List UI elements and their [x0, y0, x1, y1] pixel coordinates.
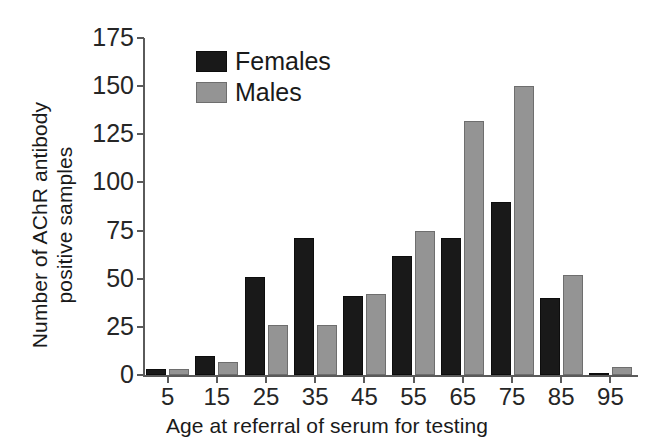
y-axis-tick [137, 278, 144, 280]
legend-swatch-males [196, 82, 227, 103]
legend-item-males: Males [196, 77, 331, 107]
bar-females-35 [294, 238, 314, 375]
y-axis-tick [137, 133, 144, 135]
legend-label-females: Females [235, 49, 331, 74]
y-axis-tick [137, 326, 144, 328]
bar-females-55 [392, 256, 412, 375]
y-axis-tick-label: 100 [48, 169, 134, 194]
x-axis-tick-label: 95 [580, 385, 640, 409]
y-axis-tick-label: 25 [48, 314, 134, 339]
bar-males-55 [415, 231, 435, 375]
bar-males-35 [317, 325, 337, 375]
y-axis-tick-label: 150 [48, 73, 134, 98]
bar-females-85 [540, 298, 560, 375]
bar-females-65 [441, 238, 461, 375]
y-axis-tick-label: 50 [48, 266, 134, 291]
bar-females-75 [491, 202, 511, 375]
bar-males-75 [514, 86, 534, 375]
bar-females-45 [343, 296, 363, 375]
bar-males-45 [366, 294, 386, 375]
legend-label-males: Males [235, 80, 302, 105]
y-axis-tick [137, 37, 144, 39]
bar-females-95 [589, 373, 609, 375]
y-axis-tick [137, 374, 144, 376]
bar-females-25 [245, 277, 265, 375]
bar-males-15 [218, 362, 238, 375]
y-axis-tick-label: 75 [48, 218, 134, 243]
bar-females-5 [146, 369, 166, 375]
bar-males-85 [563, 275, 583, 375]
legend-item-females: Females [196, 46, 331, 76]
chart-legend: Females Males [196, 46, 331, 107]
y-axis-tick-labels: 0255075100125150175 [34, 0, 134, 445]
bar-chart: Number of AChR antibody positive samples… [0, 0, 654, 445]
y-axis-tick [137, 230, 144, 232]
y-axis-tick [137, 85, 144, 87]
bar-males-65 [464, 121, 484, 375]
bar-males-25 [268, 325, 288, 375]
y-axis-tick-label: 125 [48, 121, 134, 146]
bar-males-5 [169, 369, 189, 375]
legend-swatch-females [196, 51, 227, 72]
y-axis-tick-label: 175 [48, 25, 134, 50]
y-axis-tick [137, 181, 144, 183]
bar-males-95 [612, 367, 632, 375]
bar-females-15 [195, 356, 215, 375]
x-axis-title: Age at referral of serum for testing [0, 414, 654, 438]
y-axis-tick-label: 0 [48, 362, 134, 387]
